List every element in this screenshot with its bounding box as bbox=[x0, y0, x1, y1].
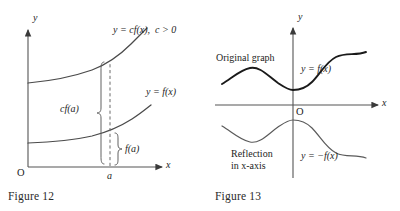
figure-12-origin-label: O bbox=[17, 167, 25, 179]
figure-12-upper-brace bbox=[97, 62, 104, 164]
figure-13-original-graph-label: Original graph bbox=[216, 52, 275, 63]
figure-12-lower-brace-label: f(a) bbox=[125, 143, 139, 154]
figure-12-y-axis-label: y bbox=[33, 12, 37, 23]
figure-13-x-axis-label: x bbox=[382, 97, 386, 108]
figure-12-caption: Figure 12 bbox=[8, 190, 54, 203]
figure-13-y-axis-label: y bbox=[298, 11, 302, 22]
figure-12-upper-curve bbox=[28, 28, 147, 83]
figure-12-lower-curve-label: y = f(x) bbox=[146, 86, 176, 97]
figure-12-upper-brace-label: cf(a) bbox=[60, 103, 79, 114]
figure-13-reflection-label-line1: Reflection bbox=[231, 148, 273, 159]
figure-12-x-tick-label: a bbox=[107, 170, 112, 181]
figure-12-upper-curve-label: y = cf(x), c > 0 bbox=[113, 24, 176, 35]
figures-stage: y = cf(x), c > 0 y = f(x) cf(a) f(a) y x… bbox=[0, 0, 400, 211]
figure-12-graphic bbox=[28, 28, 162, 167]
figure-12-x-axis-label: x bbox=[166, 159, 170, 170]
figure-13-original-curve-label: y = f(x) bbox=[301, 63, 331, 74]
figure-13-reflection-label-line2: in x-axis bbox=[231, 160, 266, 171]
figure-13-origin-label: O bbox=[296, 106, 304, 118]
figure-12-lower-brace bbox=[115, 133, 122, 165]
figure-13-reflected-curve-label: y = −f(x) bbox=[301, 150, 338, 161]
figure-12-lower-curve bbox=[28, 105, 151, 143]
figure-13-caption: Figure 13 bbox=[215, 190, 261, 203]
